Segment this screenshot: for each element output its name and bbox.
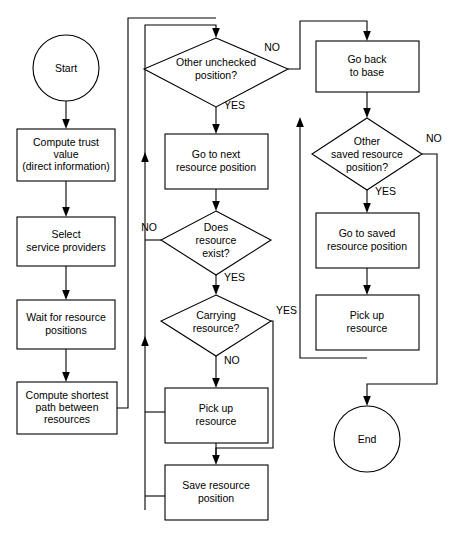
- edge-label-carrying-yes: YES: [276, 304, 297, 316]
- edge-label-unchecked-no: NO: [264, 41, 280, 53]
- arrowhead-go-base: [363, 31, 371, 41]
- pickup-mid-line-2: resource: [196, 415, 237, 427]
- compute-trust-line-2: value: [53, 148, 78, 160]
- arrowhead-go-next: [212, 124, 220, 134]
- resource-exist-line-2: resource: [196, 234, 237, 246]
- other-saved-line-2: saved resource: [331, 148, 403, 160]
- compute-path-line-1: Compute shortest: [26, 389, 109, 401]
- carrying-line-2: resource?: [193, 322, 240, 334]
- node-resource-exist[interactable]: Does resource exist?: [161, 211, 271, 275]
- arrowhead-other-saved: [363, 108, 371, 118]
- arrowhead-right-rail: [296, 117, 304, 127]
- go-next-line-1: Go to next: [192, 148, 241, 160]
- pickup-mid-line-1: Pick up: [199, 402, 234, 414]
- node-carrying[interactable]: Carrying resource?: [161, 295, 271, 356]
- arrowhead-wait-positions: [62, 290, 70, 300]
- node-go-saved[interactable]: Go to saved resource position: [316, 213, 419, 268]
- go-saved-line-1: Go to saved: [339, 227, 396, 239]
- node-save-position[interactable]: Save resource position: [165, 465, 268, 520]
- go-base-line-2: to base: [350, 66, 385, 78]
- node-other-saved[interactable]: Other saved resource position?: [312, 118, 422, 190]
- go-next-line-2: resource position: [176, 161, 256, 173]
- arrowhead-select-providers: [62, 207, 70, 217]
- arrowhead-compute-trust: [62, 119, 70, 129]
- arrowhead-resource-exist: [212, 201, 220, 211]
- edge-label-carrying-no: NO: [224, 354, 240, 366]
- arrowhead-rail-upper: [141, 152, 149, 162]
- nodes: Start Compute trust value (direct inform…: [17, 35, 422, 520]
- go-saved-line-2: resource position: [327, 240, 407, 252]
- node-wait-positions[interactable]: Wait for resource positions: [17, 300, 115, 349]
- node-pickup-mid[interactable]: Pick up resource: [165, 388, 268, 443]
- node-end[interactable]: End: [334, 406, 400, 472]
- arrowhead-rail-lower: [141, 336, 149, 346]
- wait-positions-line-2: positions: [45, 324, 86, 336]
- resource-exist-line-3: exist?: [202, 247, 230, 259]
- resource-exist-line-1: Does: [204, 221, 229, 233]
- node-compute-trust[interactable]: Compute trust value (direct information): [17, 129, 115, 181]
- select-providers-line-2: service providers: [26, 241, 105, 253]
- compute-path-line-3: resources: [44, 413, 90, 425]
- other-unchecked-line-2: position?: [195, 69, 237, 81]
- compute-path-line-2: path between: [35, 401, 98, 413]
- save-position-line-1: Save resource: [182, 479, 250, 491]
- node-compute-path[interactable]: Compute shortest path between resources: [17, 382, 117, 434]
- other-unchecked-line-1: Other unchecked: [176, 56, 256, 68]
- start-label: Start: [55, 62, 77, 74]
- edge-label-saved-yes: YES: [375, 185, 396, 197]
- compute-trust-line-3: (direct information): [22, 160, 110, 172]
- flowchart-canvas: NO YES NO YES YES NO: [0, 0, 455, 540]
- wait-positions-line-1: Wait for resource: [26, 311, 106, 323]
- arrowhead-pickup-mid: [212, 378, 220, 388]
- pickup-right-line-1: Pick up: [350, 309, 385, 321]
- node-go-next[interactable]: Go to next resource position: [165, 134, 268, 189]
- other-saved-line-1: Other: [354, 135, 381, 147]
- arrowhead-end: [363, 396, 371, 406]
- save-position-line-2: position: [198, 492, 234, 504]
- end-label: End: [358, 433, 377, 445]
- arrowhead-save-position: [212, 455, 220, 465]
- flowchart-diagram: NO YES NO YES YES NO: [0, 0, 455, 540]
- carrying-line-1: Carrying: [196, 309, 236, 321]
- node-start[interactable]: Start: [33, 35, 99, 101]
- arrowhead-pickup-right: [363, 285, 371, 295]
- node-go-base[interactable]: Go back to base: [316, 41, 419, 92]
- other-saved-line-3: position?: [346, 161, 388, 173]
- edge-label-exist-yes: YES: [224, 271, 245, 283]
- compute-trust-line-1: Compute trust: [33, 136, 99, 148]
- arrowhead-other-unchecked-top: [212, 28, 220, 38]
- edge-label-exist-no: NO: [141, 221, 157, 233]
- select-providers-line-1: Select: [51, 228, 80, 240]
- arrowhead-carrying: [212, 285, 220, 295]
- pickup-right-line-2: resource: [347, 322, 388, 334]
- node-select-providers[interactable]: Select service providers: [17, 217, 115, 266]
- arrowhead-go-saved: [363, 203, 371, 213]
- go-base-line-1: Go back: [347, 53, 387, 65]
- arrowhead-compute-path: [62, 372, 70, 382]
- node-pickup-right[interactable]: Pick up resource: [316, 295, 419, 350]
- edge-label-saved-no: NO: [426, 132, 442, 144]
